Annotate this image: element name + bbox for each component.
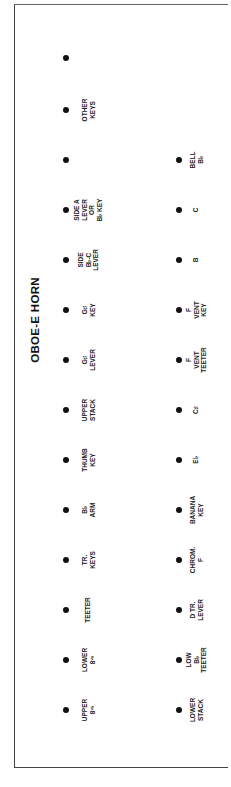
key-dot-icon: [63, 307, 69, 313]
key-dot-icon: [176, 307, 182, 313]
key-label: D TR. LEVER: [189, 599, 204, 621]
key-dot-icon: [63, 657, 69, 663]
key-label: THUMB KEY: [81, 448, 96, 471]
key-dot-icon: [63, 507, 69, 513]
key-label: F VENT TEETER: [185, 347, 208, 373]
key-dot-icon: [63, 607, 69, 613]
key-label: F VENT KEY: [185, 301, 208, 318]
key-label: LOWER 8ᵛᵃ: [81, 648, 96, 672]
key-dot-icon: [176, 207, 182, 213]
key-label: B♭ ARM: [81, 503, 96, 518]
key-label: CHROM. F: [189, 547, 204, 573]
key-label: E♭: [192, 456, 200, 463]
key-label: SIDE B♭-C LEVER: [77, 249, 100, 271]
key-label: OTHER KEYS: [81, 99, 96, 122]
key-dot-icon: [63, 55, 69, 61]
key-dot-icon: [63, 557, 69, 563]
key-dot-icon: [63, 257, 69, 263]
key-dot-icon: [63, 407, 69, 413]
key-label: B: [192, 258, 200, 263]
key-dot-icon: [176, 657, 182, 663]
key-dot-icon: [176, 257, 182, 263]
key-label: BELL B♭: [189, 152, 204, 169]
key-dot-icon: [176, 507, 182, 513]
document-title: OBOE-E HORN: [29, 277, 41, 363]
key-label: TR. KEYS: [81, 551, 96, 569]
key-dot-icon: [63, 707, 69, 713]
key-label: C♯: [192, 406, 200, 414]
key-label: C: [192, 208, 200, 213]
key-dot-icon: [176, 357, 182, 363]
key-dot-icon: [176, 157, 182, 163]
key-label: UPPER STACK: [81, 399, 96, 421]
key-dot-icon: [176, 607, 182, 613]
key-dot-icon: [63, 207, 69, 213]
key-dot-icon: [63, 457, 69, 463]
key-label: LOW B♭ TEETER: [185, 647, 208, 673]
key-label: G♯ KEY: [81, 303, 96, 316]
key-dot-icon: [176, 407, 182, 413]
key-dot-icon: [176, 707, 182, 713]
key-dot-icon: [63, 107, 69, 113]
key-label: TEETER: [84, 597, 92, 623]
key-dot-icon: [63, 157, 69, 163]
key-label: BANANA KEY: [189, 496, 204, 524]
key-dot-icon: [63, 357, 69, 363]
key-label: UPPER 8ᵛᵃ: [81, 699, 96, 721]
key-label: G♯ LEVER: [81, 349, 96, 371]
key-dot-icon: [176, 557, 182, 563]
key-dot-icon: [176, 457, 182, 463]
key-label: SIDE A LEVER OR B♭ KEY: [73, 199, 103, 222]
key-label: LOWER STACK: [189, 698, 204, 722]
